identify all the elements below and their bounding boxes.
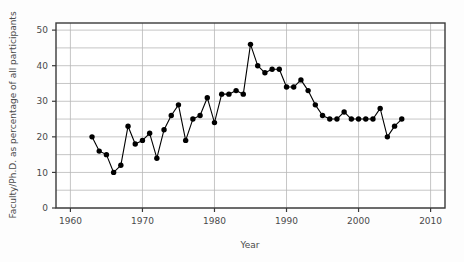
data-point — [212, 120, 217, 125]
data-point — [356, 116, 361, 121]
data-point — [255, 63, 260, 68]
x-tick-label: 1960 — [59, 216, 82, 226]
data-point — [205, 95, 210, 100]
data-point — [363, 116, 368, 121]
data-point — [197, 113, 202, 118]
plot-background — [56, 23, 445, 208]
data-point — [392, 123, 397, 128]
data-point — [327, 116, 332, 121]
data-point — [161, 127, 166, 132]
data-point — [111, 170, 116, 175]
data-point — [183, 138, 188, 143]
data-point — [176, 102, 181, 107]
data-point — [298, 77, 303, 82]
data-point — [233, 88, 238, 93]
data-point — [377, 106, 382, 111]
data-point — [291, 84, 296, 89]
x-tick-label: 1980 — [203, 216, 226, 226]
data-point — [399, 116, 404, 121]
x-tick-label: 2010 — [419, 216, 442, 226]
data-point — [385, 134, 390, 139]
x-axis-label: Year — [239, 240, 259, 250]
data-point — [349, 116, 354, 121]
data-point — [284, 84, 289, 89]
data-point — [226, 91, 231, 96]
x-tick-label: 1990 — [275, 216, 298, 226]
data-point — [262, 70, 267, 75]
data-point — [341, 109, 346, 114]
data-point — [219, 91, 224, 96]
data-point — [133, 141, 138, 146]
x-tick-label: 2000 — [347, 216, 370, 226]
data-point — [305, 88, 310, 93]
data-point — [147, 131, 152, 136]
line-chart: 01020304050196019701980199020002010 Year… — [0, 0, 464, 262]
data-point — [313, 102, 318, 107]
data-point — [154, 155, 159, 160]
data-point — [169, 113, 174, 118]
y-tick-label: 50 — [37, 25, 49, 35]
y-tick-label: 20 — [37, 132, 49, 142]
data-point — [140, 138, 145, 143]
y-tick-label: 30 — [37, 96, 49, 106]
data-point — [269, 67, 274, 72]
data-point — [190, 116, 195, 121]
data-point — [97, 148, 102, 153]
y-tick-label: 40 — [37, 61, 49, 71]
data-point — [248, 42, 253, 47]
data-point — [241, 91, 246, 96]
data-point — [104, 152, 109, 157]
data-point — [118, 163, 123, 168]
data-point — [320, 113, 325, 118]
data-point — [89, 134, 94, 139]
y-tick-label: 10 — [37, 168, 49, 178]
data-point — [125, 123, 130, 128]
data-point — [277, 67, 282, 72]
y-axis-label: Faculty/Ph.D. as percentage of all parti… — [8, 11, 18, 218]
chart-figure: 01020304050196019701980199020002010 Year… — [0, 0, 464, 262]
y-tick-label: 0 — [42, 203, 48, 213]
x-tick-label: 1970 — [131, 216, 154, 226]
data-point — [370, 116, 375, 121]
data-point — [334, 116, 339, 121]
